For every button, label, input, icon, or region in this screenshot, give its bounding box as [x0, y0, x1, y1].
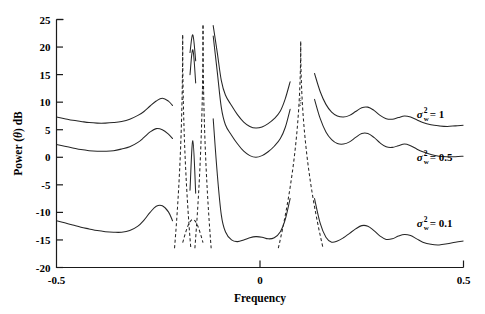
dashed-lobe-1-right [203, 26, 211, 249]
curve-sigma-w-2-0-5-seg2 [213, 36, 290, 157]
spectral-plot-svg: 2520151050-5-10-15-20-0.500.5FrequencyPo… [0, 0, 485, 314]
dashed-lobe-1-left [195, 26, 203, 249]
y-tick-label-25: 25 [40, 14, 52, 26]
curve-sigma-w-2-0-1-seg2 [213, 119, 290, 242]
y-axis-title: Power (θ) dB [12, 111, 25, 176]
plot-axes [57, 20, 464, 268]
curve-sigma-w-2-1-seg0 [57, 98, 173, 123]
annotation-sigma-01: σ2w= 0.1 [417, 215, 453, 232]
label-layer: 2520151050-5-10-15-20-0.500.5FrequencyPo… [12, 14, 471, 305]
figure-panel: 2520151050-5-10-15-20-0.500.5FrequencyPo… [0, 0, 485, 314]
svg-text:Power (θ) dB: Power (θ) dB [12, 111, 25, 176]
sigma-1-superscript: 2 [424, 106, 428, 115]
y-tick-label-10: 10 [40, 96, 52, 108]
axis-layer [57, 20, 464, 268]
curve-sigma-w-2-1-seg2 [213, 26, 290, 129]
y-tick-label-0: 0 [45, 151, 51, 163]
annotation-sigma-05: σ2w= 0.5 [417, 149, 453, 166]
curve-sigma-w-2-0-1-seg0 [57, 205, 173, 232]
peak-fill-layer [175, 26, 324, 249]
sigma-05-superscript: 2 [424, 149, 428, 158]
sigma-01-sigma-glyph: σ [417, 217, 424, 229]
curve-sigma-w-2-1-seg1 [190, 35, 196, 61]
dashed-lobe-0-right [183, 35, 191, 248]
sigma-01-value: = 0.1 [430, 217, 453, 229]
sigma-1-value: = 1 [430, 108, 445, 120]
y-tick-label--10: -10 [36, 206, 51, 218]
annotation-sigma-1: σ2w= 1 [417, 106, 445, 123]
curve-sigma-w-2-0-5-seg0 [57, 128, 173, 151]
y-tick-label-20: 20 [40, 41, 52, 53]
curve-layer [57, 26, 464, 245]
sigma-05-sigma-glyph: σ [417, 151, 424, 163]
x-tick-label-1: 0 [257, 274, 263, 286]
sigma-05-value: = 0.5 [430, 151, 453, 163]
sigma-01-superscript: 2 [424, 215, 428, 224]
dashed-lobe-2-left [278, 42, 300, 249]
curve-sigma-w-2-0-1-seg1 [190, 141, 196, 193]
y-tick-label--20: -20 [36, 262, 51, 274]
y-tick-label-15: 15 [40, 69, 52, 81]
x-tick-label-0: -0.5 [48, 274, 66, 286]
x-tick-label-2: 0.5 [457, 274, 471, 286]
x-axis-title: Frequency [234, 292, 286, 305]
dashed-inter-lobe-strand [183, 220, 203, 243]
dashed-lobe-2-right [301, 42, 323, 249]
y-tick-label-5: 5 [45, 124, 51, 136]
dashed-lobe-0-left [175, 35, 183, 248]
sigma-1-sigma-glyph: σ [417, 108, 424, 120]
y-tick-label--15: -15 [36, 234, 51, 246]
y-tick-label--5: -5 [41, 179, 51, 191]
